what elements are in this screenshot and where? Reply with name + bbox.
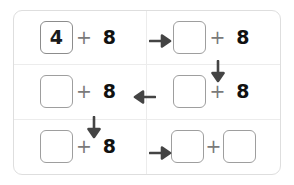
answer-box-r0c1[interactable] xyxy=(173,21,206,54)
worksheet-cell-r2c1[interactable]: + xyxy=(147,120,280,174)
expression-r1c1: + 8 xyxy=(173,75,253,108)
worksheet-cell-r0c1[interactable]: + 8 xyxy=(147,11,280,65)
addend-r0c1: 8 xyxy=(228,28,253,47)
worksheet-cell-r1c0[interactable]: + 8 xyxy=(14,65,147,119)
worksheet-cell-r2c0[interactable]: + 8 xyxy=(14,120,147,174)
answer-box-r1c0[interactable] xyxy=(40,75,73,108)
plus-operator-r2c0: + xyxy=(73,137,95,156)
expression-r2c1: + xyxy=(171,130,257,163)
expression-r2c0: + 8 xyxy=(40,130,120,163)
addend-r1c0: 8 xyxy=(95,82,120,101)
addend-r2c0: 8 xyxy=(95,137,120,156)
worksheet-cell-r0c0[interactable]: 4 + 8 xyxy=(14,11,147,65)
expression-r0c1: + 8 xyxy=(173,21,253,54)
worksheet-grid: 4 + 8 + 8 + 8 + 8 xyxy=(14,11,280,174)
answer-box-r2c1-left[interactable] xyxy=(171,130,204,163)
answer-box-r2c0[interactable] xyxy=(40,130,73,163)
addend-r1c1: 8 xyxy=(228,82,253,101)
addend-r0c0: 8 xyxy=(95,28,120,47)
answer-box-r0c0[interactable]: 4 xyxy=(40,21,73,54)
expression-r0c0: 4 + 8 xyxy=(40,21,120,54)
worksheet-cell-r1c1[interactable]: + 8 xyxy=(147,65,280,119)
plus-operator-r1c0: + xyxy=(73,82,95,101)
expression-r1c0: + 8 xyxy=(40,75,120,108)
plus-operator-r2c1: + xyxy=(204,137,224,156)
worksheet-frame: 4 + 8 + 8 + 8 + 8 xyxy=(13,10,281,175)
plus-operator-r0c1: + xyxy=(206,28,228,47)
answer-box-r1c1[interactable] xyxy=(173,75,206,108)
plus-operator-r1c1: + xyxy=(206,82,228,101)
plus-operator-r0c0: + xyxy=(73,28,95,47)
answer-box-r2c1-right[interactable] xyxy=(223,130,256,163)
